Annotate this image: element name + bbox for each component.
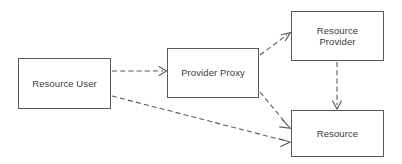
edge-proxy-to-resource-line <box>260 92 287 125</box>
node-resource: Resource <box>291 110 384 157</box>
node-resource-user: Resource User <box>18 58 111 109</box>
node-provider-proxy-label: Provider Proxy <box>181 67 245 79</box>
edge-proxy-to-provider-line <box>260 35 287 55</box>
node-resource-label: Resource <box>317 128 358 140</box>
resource-access-diagram: Resource User Provider Proxy Resource Pr… <box>0 0 402 164</box>
edge-user-to-resource <box>112 96 290 146</box>
edge-proxy-to-resource <box>260 92 290 128</box>
edge-proxy-to-resource-arrowhead <box>280 120 291 129</box>
node-provider-proxy: Provider Proxy <box>167 48 259 98</box>
edge-provider-to-resource <box>333 62 342 109</box>
node-resource-user-label: Resource User <box>32 78 97 90</box>
edge-user-to-resource-line <box>112 96 286 141</box>
node-resource-provider-label: Resource Provider <box>317 25 358 48</box>
edge-proxy-to-provider-arrowhead <box>281 33 290 41</box>
edge-proxy-to-provider <box>260 33 291 55</box>
edge-user-to-proxy <box>112 67 167 76</box>
node-resource-provider: Resource Provider <box>291 11 384 61</box>
